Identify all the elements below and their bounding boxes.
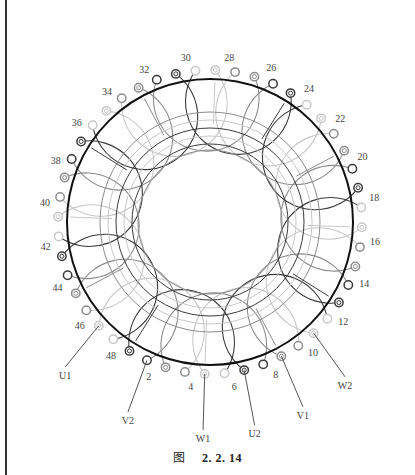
coil-arc xyxy=(65,173,140,279)
lead-wire xyxy=(203,374,205,430)
slot-marker xyxy=(340,146,348,154)
slot-marker xyxy=(77,137,85,145)
inner-connectors xyxy=(70,82,350,362)
slot-marker xyxy=(109,335,117,343)
slot-marker xyxy=(191,66,199,74)
slot-marker xyxy=(335,298,343,306)
coil-arcs xyxy=(58,70,362,374)
slot-label: 40 xyxy=(40,197,50,208)
slot-marker xyxy=(211,66,219,74)
slot-label: 2 xyxy=(146,371,151,382)
slot-markers xyxy=(54,66,366,378)
slot-marker xyxy=(294,342,302,350)
slot-marker xyxy=(72,289,80,297)
slot-marker xyxy=(125,347,133,355)
connector-radial xyxy=(205,320,206,362)
slot-marker xyxy=(269,79,277,87)
slot-label: 22 xyxy=(335,113,345,124)
slot-marker xyxy=(134,84,142,92)
slot-marker xyxy=(56,193,64,201)
connector-radial xyxy=(70,217,112,218)
slot-label: 12 xyxy=(338,316,348,327)
lead-wire xyxy=(314,333,345,377)
slot-marker xyxy=(354,184,362,192)
figure-caption: 图 2. 2. 14 xyxy=(0,448,415,466)
slot-label: 46 xyxy=(75,320,85,331)
slot-marker xyxy=(317,114,325,122)
slot-marker xyxy=(67,155,75,163)
slot-marker xyxy=(63,271,71,279)
slot-label: 48 xyxy=(106,350,116,361)
slot-marker xyxy=(323,314,331,322)
slot-marker xyxy=(220,369,228,377)
slot-marker xyxy=(54,212,62,220)
connector-radial xyxy=(213,82,214,124)
slot-number-labels: 2468101214161820222426283032343638404244… xyxy=(40,52,380,393)
connector-ring xyxy=(116,128,304,316)
lead-label: W1 xyxy=(196,433,210,444)
slot-marker xyxy=(259,360,267,368)
slot-marker xyxy=(54,232,62,240)
slot-marker xyxy=(356,243,364,251)
slot-marker xyxy=(181,368,189,376)
connector-ring xyxy=(132,144,288,300)
slot-marker xyxy=(172,70,180,78)
slot-marker xyxy=(153,75,161,83)
slot-marker xyxy=(143,356,151,364)
slot-marker xyxy=(277,352,285,360)
slot-marker xyxy=(302,101,310,109)
lead-label: V1 xyxy=(297,410,309,421)
coil-arc xyxy=(281,165,356,271)
coil-arc xyxy=(161,293,267,368)
figure-number: 2. 2. 14 xyxy=(202,451,242,465)
slot-label: 24 xyxy=(304,83,314,94)
slot-marker xyxy=(231,68,239,76)
slot-label: 8 xyxy=(273,369,278,380)
lead-label: V2 xyxy=(122,415,134,426)
stator-ring xyxy=(67,79,353,365)
slot-marker xyxy=(357,203,365,211)
lead-label: U2 xyxy=(248,428,260,439)
lead-wire xyxy=(128,360,147,412)
slot-label: 44 xyxy=(53,282,63,293)
connector-ring xyxy=(100,112,320,332)
lead-label: W2 xyxy=(338,380,352,391)
slot-label: 34 xyxy=(102,86,112,97)
slot-marker xyxy=(351,262,359,270)
coil-arc xyxy=(153,77,259,152)
slot-label: 32 xyxy=(139,64,149,75)
slot-marker xyxy=(60,173,68,181)
lead-wire xyxy=(281,356,303,407)
lead-wire xyxy=(65,326,99,367)
slot-marker xyxy=(348,165,356,173)
slot-label: 36 xyxy=(72,117,82,128)
slot-label: 14 xyxy=(359,278,369,289)
slot-label: 4 xyxy=(188,381,193,392)
figure-char: 图 xyxy=(173,451,185,465)
slot-marker xyxy=(82,306,90,314)
slot-label: 18 xyxy=(369,192,379,203)
slot-marker xyxy=(286,89,294,97)
slot-marker xyxy=(161,363,169,371)
winding-diagram: 2468101214161820222426283032343638404244… xyxy=(0,0,415,445)
slot-marker xyxy=(118,94,126,102)
slot-marker xyxy=(330,130,338,138)
slot-label: 28 xyxy=(224,52,234,63)
lead-wire xyxy=(244,370,254,425)
connector-radial xyxy=(308,225,350,226)
slot-label: 42 xyxy=(41,241,51,252)
slot-marker xyxy=(58,252,66,260)
slot-marker xyxy=(358,223,366,231)
slot-marker xyxy=(344,281,352,289)
slot-marker xyxy=(102,107,110,115)
lead-label: U1 xyxy=(59,370,71,381)
slot-label: 26 xyxy=(266,62,276,73)
slot-label: 16 xyxy=(370,236,380,247)
slot-label: 38 xyxy=(51,155,61,166)
slot-label: 10 xyxy=(308,347,318,358)
slot-label: 30 xyxy=(181,52,191,63)
slot-label: 6 xyxy=(232,381,237,392)
connector-ring xyxy=(124,136,296,308)
slot-label: 20 xyxy=(357,151,367,162)
slot-marker xyxy=(250,72,258,80)
